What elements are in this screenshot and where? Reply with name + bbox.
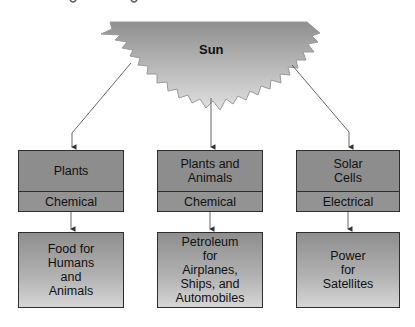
source-box-plants: Plants Chemical [18,150,124,212]
use-box-petroleum: Petroleum for Airplanes, Ships, and Auto… [157,232,263,308]
source-box-solar-cells: Solar Cells Electrical [296,150,400,212]
source-box-plants-and-animals: Plants and Animals Chemical [157,150,263,212]
energy-form-label: Electrical [297,192,399,211]
source-label: Solar Cells [297,151,399,192]
source-label: Plants [19,151,123,192]
arrow-sun-to-solar-cells [292,65,349,147]
use-box-food: Food for Humans and Animals [18,232,124,308]
energy-form-label: Chemical [19,192,123,211]
sun-shape [101,22,320,110]
energy-form-label: Chemical [158,192,262,211]
use-box-power: Power for Satellites [296,232,400,308]
arrow-sun-to-plants [72,63,131,147]
cropped-text-fragment [70,0,137,2]
sun-label: Sun [199,42,224,57]
source-label: Plants and Animals [158,151,262,192]
